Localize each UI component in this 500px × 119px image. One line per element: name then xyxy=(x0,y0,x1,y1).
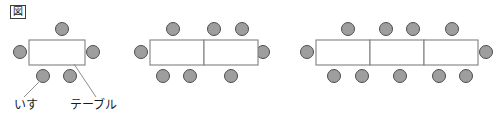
table-unit xyxy=(204,40,258,65)
chair xyxy=(157,70,170,83)
table-group-1 xyxy=(14,23,100,83)
chair xyxy=(342,23,355,36)
chair xyxy=(208,23,221,36)
chair xyxy=(56,23,69,36)
table-group-2 xyxy=(135,23,270,83)
chair xyxy=(433,70,446,83)
chair xyxy=(167,23,180,36)
figure-marker: 図 xyxy=(10,5,26,19)
chair xyxy=(14,46,27,59)
chair xyxy=(135,46,148,59)
chair xyxy=(64,70,77,83)
chair xyxy=(328,70,341,83)
table-leader-line xyxy=(74,64,96,97)
chair-leader-line xyxy=(24,81,40,97)
chair xyxy=(236,23,249,36)
table-caption-label: テーブル xyxy=(70,99,117,111)
table-unit xyxy=(316,40,370,65)
chair xyxy=(87,46,100,59)
chair xyxy=(225,70,238,83)
chair-caption-label: いす xyxy=(14,99,38,111)
table-unit xyxy=(29,40,85,65)
chair xyxy=(446,23,459,36)
table-unit xyxy=(150,40,204,65)
chair xyxy=(407,23,420,36)
chair xyxy=(380,23,393,36)
table-unit xyxy=(424,40,478,65)
chair xyxy=(184,70,197,83)
chair xyxy=(301,46,314,59)
chair xyxy=(356,70,369,83)
table-group-3 xyxy=(301,23,493,83)
table-unit xyxy=(370,40,424,65)
chair xyxy=(480,46,493,59)
chair xyxy=(394,70,407,83)
chair xyxy=(460,70,473,83)
chair xyxy=(37,70,50,83)
